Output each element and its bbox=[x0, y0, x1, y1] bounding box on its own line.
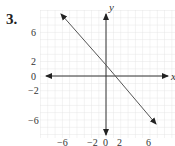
x-tick-6: 6 bbox=[146, 137, 151, 146]
x-tick-neg6: −6 bbox=[57, 137, 68, 146]
x-tick-neg2: −2 bbox=[87, 137, 98, 146]
x-tick-0: 0 bbox=[103, 137, 108, 146]
x-tick-2: 2 bbox=[117, 137, 122, 146]
y-tick-0: 0 bbox=[31, 71, 36, 82]
x-axis-label: x bbox=[170, 70, 175, 82]
coordinate-graph: y x 6 2 0 −2 −6 −6 −2 0 2 6 bbox=[0, 0, 175, 146]
y-axis-label: y bbox=[108, 1, 114, 13]
y-tick-neg2: −2 bbox=[28, 85, 39, 96]
y-tick-2: 2 bbox=[31, 56, 36, 67]
grid bbox=[40, 10, 175, 138]
y-tick-6: 6 bbox=[31, 27, 36, 38]
y-tick-neg6: −6 bbox=[28, 115, 39, 126]
